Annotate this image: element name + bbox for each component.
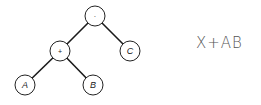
handwritten-expression: X+AB	[196, 34, 243, 52]
node-root: ·	[85, 6, 105, 26]
tree-svg: · + C A B	[0, 0, 261, 105]
node-a-label: A	[21, 80, 28, 90]
node-c-label: C	[127, 46, 134, 56]
node-a: A	[15, 75, 35, 95]
node-plus-label: +	[58, 48, 62, 55]
node-b: B	[83, 75, 103, 95]
node-plus: +	[50, 41, 70, 61]
node-b-label: B	[90, 80, 96, 90]
expression-tree-diagram: · + C A B X+AB	[0, 0, 261, 105]
node-c: C	[120, 41, 140, 61]
node-root-label: ·	[94, 13, 96, 20]
